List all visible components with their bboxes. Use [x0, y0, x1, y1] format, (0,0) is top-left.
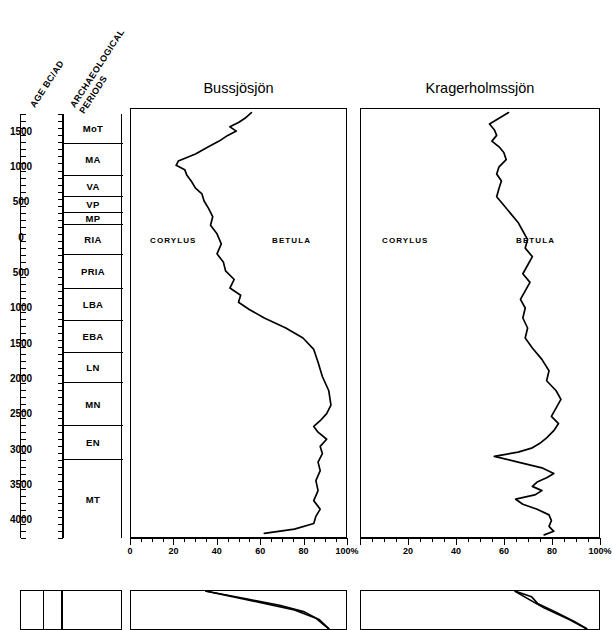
- age-minor-tick: [21, 213, 26, 214]
- age-tick-label: 1500: [0, 126, 42, 137]
- period-label: MA: [85, 154, 100, 165]
- period-cell-va: VA: [63, 175, 123, 196]
- age-column-next-row-divider: [43, 590, 44, 630]
- period-cell-mp: MP: [63, 212, 123, 224]
- period-label: LN: [86, 362, 99, 373]
- taxon-label-corylus-1: CORYLUS: [150, 236, 197, 245]
- age-minor-tick: [21, 397, 26, 398]
- period-cell-mot: MoT: [63, 114, 123, 143]
- age-minor-tick: [21, 220, 26, 221]
- age-minor-tick: [21, 503, 26, 504]
- age-tick-label: 3000: [0, 444, 42, 455]
- x-minor-tick: [444, 538, 445, 542]
- x-tick-label: 20: [168, 546, 178, 556]
- x-minor-tick: [152, 538, 153, 542]
- period-label: RIA: [84, 234, 101, 245]
- age-minor-tick: [21, 361, 26, 362]
- age-column-next-row: [20, 590, 62, 630]
- period-label: EN: [86, 437, 100, 448]
- taxon-label-betula-1: BETULA: [272, 236, 311, 245]
- period-cell-vp: VP: [63, 196, 123, 212]
- x-minor-tick: [588, 538, 589, 542]
- x-minor-tick: [396, 538, 397, 542]
- age-tick-label: 1000: [0, 302, 42, 313]
- x-major-tick: [173, 538, 174, 545]
- x-minor-tick: [239, 538, 240, 542]
- age-minor-tick: [21, 467, 26, 468]
- x-tick-label: 60: [499, 546, 509, 556]
- x-minor-tick: [576, 538, 577, 542]
- x-tick-label: 40: [212, 546, 222, 556]
- periods-column-header: ARCHAEOLOGICAL PERIODS: [68, 27, 136, 116]
- age-minor-tick: [21, 390, 26, 391]
- age-minor-tick: [21, 368, 26, 369]
- age-minor-tick: [21, 326, 26, 327]
- x-major-tick: [304, 538, 305, 545]
- age-minor-tick: [21, 538, 26, 539]
- x-minor-tick: [564, 538, 565, 542]
- taxon-label-betula-2: BETULA: [516, 236, 555, 245]
- age-minor-tick: [21, 333, 26, 334]
- pollen-curve-kragerholmssjon: [361, 109, 599, 537]
- age-tick-label: 2500: [0, 408, 42, 419]
- period-cell-ln: LN: [63, 352, 123, 382]
- age-tick-label: 500: [0, 196, 42, 207]
- age-minor-tick: [21, 284, 26, 285]
- x-major-tick: [456, 538, 457, 545]
- pollen-curve-next-row-2: [361, 591, 599, 629]
- x-minor-tick: [282, 538, 283, 542]
- panel-kragerholmssjon: [360, 108, 600, 538]
- x-major-tick: [504, 538, 505, 545]
- x-minor-tick: [372, 538, 373, 542]
- x-minor-tick: [336, 538, 337, 542]
- age-minor-tick: [21, 114, 26, 115]
- period-label: EBA: [83, 331, 104, 342]
- age-tick-label: 500: [0, 267, 42, 278]
- x-axis-bussjosjon: 020406080100%: [130, 538, 347, 560]
- panel-title-bussjosjon: Bussjösjön: [130, 80, 347, 96]
- age-minor-tick: [21, 291, 26, 292]
- age-minor-tick: [21, 354, 26, 355]
- age-minor-tick: [21, 248, 26, 249]
- x-minor-tick: [206, 538, 207, 542]
- x-minor-tick: [325, 538, 326, 542]
- x-tick-label: 0: [127, 546, 132, 556]
- age-minor-tick: [21, 192, 26, 193]
- x-major-tick: [217, 538, 218, 545]
- period-cell-ria: RIA: [63, 224, 123, 254]
- x-minor-tick: [432, 538, 433, 542]
- x-tick-label: 80: [299, 546, 309, 556]
- x-minor-tick: [528, 538, 529, 542]
- age-minor-tick: [21, 319, 26, 320]
- age-minor-tick: [21, 432, 26, 433]
- x-minor-tick: [540, 538, 541, 542]
- age-minor-tick: [21, 439, 26, 440]
- x-minor-tick: [163, 538, 164, 542]
- period-cell-ma: MA: [63, 143, 123, 175]
- age-tick-label: 1500: [0, 338, 42, 349]
- x-minor-tick: [249, 538, 250, 542]
- age-minor-tick: [21, 496, 26, 497]
- age-minor-tick: [21, 474, 26, 475]
- x-tick-label: 20: [403, 546, 413, 556]
- x-tick-label: 60: [255, 546, 265, 556]
- age-column-header: AGE BC/AD: [28, 59, 66, 110]
- period-label: PRIA: [81, 266, 105, 277]
- age-minor-tick: [21, 404, 26, 405]
- age-minor-tick: [21, 298, 26, 299]
- periods-column-next-row: [62, 590, 122, 630]
- age-tick-label: 1000: [0, 161, 42, 172]
- age-minor-tick: [21, 425, 26, 426]
- period-label: MP: [86, 213, 101, 224]
- x-minor-tick: [228, 538, 229, 542]
- period-cell-mn: MN: [63, 382, 123, 425]
- x-minor-tick: [480, 538, 481, 542]
- x-minor-tick: [141, 538, 142, 542]
- archaeological-periods-column: MoTMAVAVPMPRIAPRIALBAEBALNMNENMT: [62, 114, 122, 538]
- x-minor-tick: [492, 538, 493, 542]
- age-minor-tick: [58, 538, 63, 539]
- x-minor-tick: [420, 538, 421, 542]
- x-minor-tick: [314, 538, 315, 542]
- x-major-tick: [552, 538, 553, 545]
